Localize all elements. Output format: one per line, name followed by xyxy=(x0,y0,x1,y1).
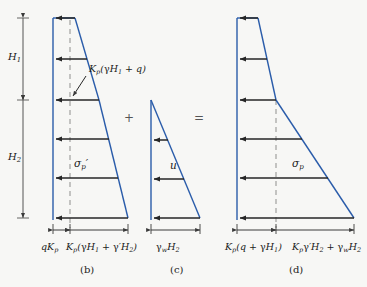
dimension-label-kp-gamma-h2-gw-h2: Kpγ′H2 + γwH2 xyxy=(292,242,361,253)
plus-operator: + xyxy=(124,112,134,124)
u-label-c: u xyxy=(170,160,177,171)
panel-caption-d: (d) xyxy=(289,265,303,275)
sigma-p-label-d: σp xyxy=(292,158,304,170)
equals-operator: = xyxy=(194,112,204,124)
annotation-kp-gamma-h1-q: Kp(γH1 + q) xyxy=(89,64,146,75)
dimension-label-qkp: qKp xyxy=(41,242,58,253)
dimension-label-kp-q-gamma-h1: Kp(q + γH1) xyxy=(225,242,282,253)
sigma-p-effective-label-b: σp′ xyxy=(74,158,88,170)
dimension-label-gamma-w-h2: γwH2 xyxy=(156,242,180,253)
h1-depth-label: H1 xyxy=(8,52,21,64)
dimension-label-kp-gamma-h1-gamma-h2: Kp(γH1 + γ′H2) xyxy=(66,242,137,253)
h2-depth-label: H2 xyxy=(8,152,21,164)
panel-caption-c: (c) xyxy=(170,265,183,275)
panel-caption-b: (b) xyxy=(80,265,94,275)
